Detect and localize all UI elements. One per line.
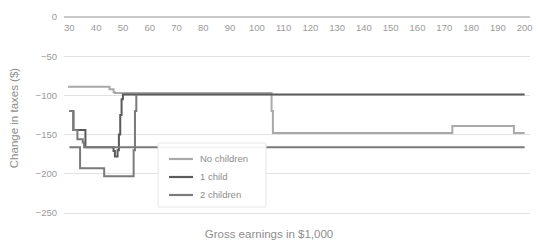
x-tick-label: 50 <box>118 22 129 33</box>
x-tick-label: 70 <box>171 22 182 33</box>
legend-label-no-children[interactable]: No children <box>200 153 248 164</box>
legend: No children1 child2 children <box>158 143 266 207</box>
x-tick-label: 190 <box>490 22 506 33</box>
x-tick-label: 140 <box>356 22 372 33</box>
legend-label-1-child[interactable]: 1 child <box>200 171 227 182</box>
x-tick-labels: 3040506070809010011012013014015016017018… <box>64 22 533 33</box>
chart-container: 3040506070809010011012013014015016017018… <box>0 0 538 251</box>
y-tick-labels: 0−50−100−150−200−250 <box>36 11 57 218</box>
data-series-group <box>68 87 525 176</box>
legend-label-2-children[interactable]: 2 children <box>200 189 241 200</box>
y-tick-label: 0 <box>52 11 57 22</box>
x-tick-label: 200 <box>517 22 533 33</box>
x-tick-label: 110 <box>276 22 291 33</box>
y-tick-label: −250 <box>36 207 57 218</box>
x-tick-label: 180 <box>463 22 479 33</box>
y-tick-label: −150 <box>36 129 57 140</box>
x-tick-label: 90 <box>225 22 236 33</box>
x-tick-label: 160 <box>410 22 426 33</box>
series-line-2-children <box>69 111 524 147</box>
y-tick-label: −50 <box>41 51 57 62</box>
line-chart: 3040506070809010011012013014015016017018… <box>0 0 538 251</box>
gridlines <box>64 17 530 213</box>
x-tick-label: 150 <box>383 22 399 33</box>
x-tick-label: 130 <box>329 22 345 33</box>
y-axis-title: Change in taxes ($) <box>8 68 20 169</box>
x-tick-label: 120 <box>302 22 318 33</box>
x-tick-label: 30 <box>64 22 75 33</box>
series-line-2-children-lower <box>69 95 136 177</box>
x-tick-label: 40 <box>91 22 102 33</box>
x-tick-label: 60 <box>144 22 155 33</box>
y-tick-label: −100 <box>36 90 57 101</box>
y-tick-label: −200 <box>36 168 57 179</box>
x-tick-label: 80 <box>198 22 209 33</box>
x-tick-label: 100 <box>249 22 265 33</box>
x-axis-title: Gross earnings in $1,000 <box>205 228 334 240</box>
x-tick-label: 170 <box>436 22 452 33</box>
